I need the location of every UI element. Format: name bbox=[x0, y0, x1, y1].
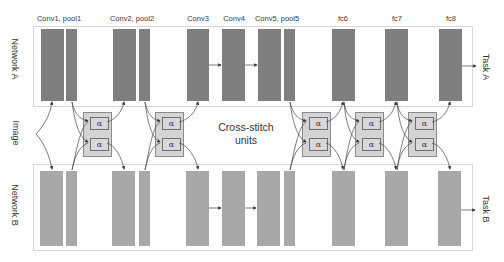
connection-arrows bbox=[0, 0, 504, 262]
